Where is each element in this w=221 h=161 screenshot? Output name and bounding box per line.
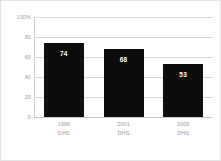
bar-chart-figure: 020406080100% 746853 1996DHS2001DHS2006D… xyxy=(0,0,221,161)
x-tick-label-survey: DHS xyxy=(38,129,90,138)
x-axis: 1996DHS2001DHS2006DHS xyxy=(34,120,213,146)
x-tick-label: 2006DHS xyxy=(157,120,209,137)
bar-value-label: 74 xyxy=(44,50,84,57)
x-tick-label-year: 2006 xyxy=(157,120,209,129)
y-tick-label: 100% xyxy=(3,14,31,20)
x-tick-label-year: 1996 xyxy=(38,120,90,129)
x-tick-label-year: 2001 xyxy=(98,120,150,129)
y-tick-label: 40 xyxy=(3,74,31,80)
gridline xyxy=(34,17,213,18)
y-tick-label: 60 xyxy=(3,54,31,60)
x-tick-label: 1996DHS xyxy=(38,120,90,137)
plot-area: 746853 xyxy=(34,17,213,117)
y-tick-label: 80 xyxy=(3,34,31,40)
bar: 68 xyxy=(104,49,144,117)
x-tick-label: 2001DHS xyxy=(98,120,150,137)
bar-value-label: 53 xyxy=(163,71,203,78)
bar-value-label: 68 xyxy=(104,56,144,63)
gridline xyxy=(34,37,213,38)
x-tick-label-survey: DHS xyxy=(157,129,209,138)
y-tick-label: 0 xyxy=(3,114,31,120)
bar: 74 xyxy=(44,43,84,117)
x-tick-label-survey: DHS xyxy=(98,129,150,138)
gridline xyxy=(34,117,213,118)
y-axis: 020406080100% xyxy=(1,17,31,117)
bar: 53 xyxy=(163,64,203,117)
y-tick-label: 20 xyxy=(3,94,31,100)
